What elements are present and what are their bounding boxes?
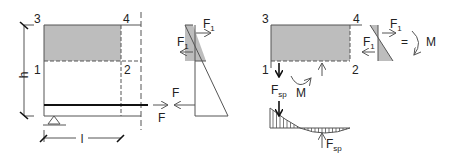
corner-label-1: 1 bbox=[262, 63, 269, 77]
corner-label-2: 2 bbox=[352, 63, 359, 77]
stress-slope bbox=[185, 25, 228, 116]
corner-label-2: 2 bbox=[124, 63, 131, 77]
spalling-stress-distribution: Fsp bbox=[270, 101, 350, 153]
corner-label-4: 4 bbox=[123, 12, 130, 26]
moment-arc-icon bbox=[291, 76, 311, 85]
corner-label-3: 3 bbox=[262, 12, 269, 26]
left-panel: h l 3 4 1 2 F F bbox=[17, 12, 195, 146]
spalling-force-label: Fsp bbox=[271, 83, 287, 99]
stress-triangle: F1 F1 bbox=[177, 17, 228, 116]
equiv-moment-label: M bbox=[426, 35, 436, 49]
equiv-moment-arc-icon bbox=[412, 31, 419, 55]
support-triangle-icon bbox=[48, 116, 60, 124]
corner-label-4: 4 bbox=[353, 12, 360, 26]
distribution-curve bbox=[270, 108, 350, 133]
small-f1-label-mid: F1 bbox=[363, 35, 375, 51]
height-label: h bbox=[17, 72, 31, 79]
right-panel: 3 4 1 2 Fsp M F1 F1 = M Fsp bbox=[262, 12, 436, 153]
spalling-force-diagram: h l 3 4 1 2 F F F1 F1 bbox=[0, 0, 450, 162]
corner-label-3: 3 bbox=[34, 12, 41, 26]
length-label: l bbox=[81, 132, 84, 146]
force-label-top: F bbox=[172, 86, 179, 100]
shaded-free-body bbox=[271, 25, 350, 61]
bottom-spalling-force-label: Fsp bbox=[326, 137, 342, 153]
distribution-hatching bbox=[273, 110, 347, 133]
small-f1-label-top: F1 bbox=[390, 17, 402, 33]
corner-label-1: 1 bbox=[34, 63, 41, 77]
f1-label-top: F1 bbox=[203, 17, 215, 33]
moment-label: M bbox=[296, 86, 306, 100]
shaded-end-zone bbox=[44, 25, 121, 61]
force-label-bottom: F bbox=[158, 111, 165, 125]
equivalence-sign: = bbox=[401, 35, 408, 49]
